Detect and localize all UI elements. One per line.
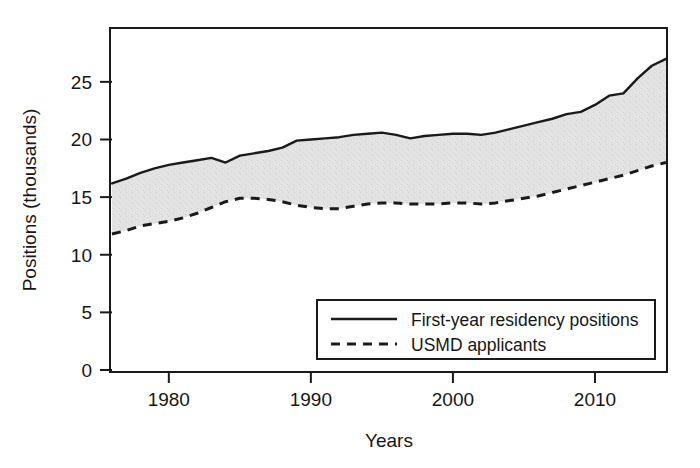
chart-legend: First-year residency positions USMD appl… bbox=[317, 300, 655, 359]
y-axis-ticks: 0510152025 bbox=[71, 72, 112, 381]
line-area-chart: 0510152025 1980199020002010 Positions (t… bbox=[0, 0, 700, 468]
x-tick-label-2010: 2010 bbox=[574, 389, 616, 410]
legend-label-usmd-applicants: USMD applicants bbox=[411, 335, 546, 355]
y-tick-label-15: 15 bbox=[71, 187, 92, 208]
y-tick-label-25: 25 bbox=[71, 72, 92, 93]
y-tick-label-10: 10 bbox=[71, 245, 92, 266]
y-tick-label-20: 20 bbox=[71, 129, 92, 150]
y-axis-title: Positions (thousands) bbox=[19, 109, 40, 292]
y-tick-label-5: 5 bbox=[81, 302, 92, 323]
y-tick-label-0: 0 bbox=[81, 360, 92, 381]
x-tick-label-1980: 1980 bbox=[148, 389, 190, 410]
x-tick-label-1990: 1990 bbox=[290, 389, 332, 410]
x-axis-ticks: 1980199020002010 bbox=[148, 372, 616, 410]
x-axis-title: Years bbox=[365, 430, 413, 451]
legend-label-first-year-residency-positions: First-year residency positions bbox=[411, 310, 639, 330]
x-tick-label-2000: 2000 bbox=[432, 389, 474, 410]
chart-figure: 0510152025 1980199020002010 Positions (t… bbox=[0, 0, 700, 468]
